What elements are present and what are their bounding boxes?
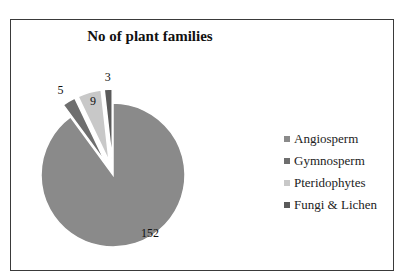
legend-swatch-icon bbox=[284, 158, 290, 164]
legend-item-fungi-lichen: Fungi & Lichen bbox=[284, 194, 377, 216]
data-label: 5 bbox=[57, 83, 63, 97]
legend-item-angiosperm: Angiosperm bbox=[284, 128, 377, 150]
legend-item-gymnosperm: Gymnosperm bbox=[284, 150, 377, 172]
pie-slice-angiosperm bbox=[41, 103, 185, 247]
legend-label: Pteridophytes bbox=[294, 175, 366, 191]
legend-swatch-icon bbox=[284, 180, 290, 186]
legend-label: Fungi & Lichen bbox=[294, 197, 377, 213]
legend-swatch-icon bbox=[284, 136, 290, 142]
data-label: 152 bbox=[141, 226, 159, 240]
data-label: 9 bbox=[90, 94, 96, 108]
legend-label: Gymnosperm bbox=[294, 153, 365, 169]
legend-item-pteridophytes: Pteridophytes bbox=[284, 172, 377, 194]
legend-swatch-icon bbox=[284, 202, 290, 208]
legend: Angiosperm Gymnosperm Pteridophytes Fung… bbox=[284, 128, 377, 216]
legend-label: Angiosperm bbox=[294, 131, 358, 147]
data-label: 3 bbox=[105, 70, 111, 84]
